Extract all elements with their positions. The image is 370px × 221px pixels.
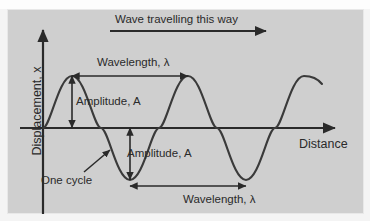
amplitude-top-label: Amplitude, A bbox=[76, 96, 141, 108]
wavelength-top-label: Wavelength, λ bbox=[97, 57, 169, 69]
wave-direction-label: Wave travelling this way bbox=[115, 14, 238, 26]
amplitude-bottom-label: Amplitude, A bbox=[127, 148, 192, 160]
diagram-vector-layer bbox=[0, 0, 370, 221]
wavelength-bottom-label: Wavelength, λ bbox=[183, 194, 255, 206]
one-cycle-label: One cycle bbox=[41, 175, 92, 187]
wave-diagram-figure: Displacement, x Distance Wave travelling… bbox=[0, 0, 370, 221]
y-axis-label: Displacement, x bbox=[30, 46, 44, 176]
one-cycle-leader-arrow bbox=[84, 150, 110, 172]
x-axis-label: Distance bbox=[299, 138, 348, 151]
